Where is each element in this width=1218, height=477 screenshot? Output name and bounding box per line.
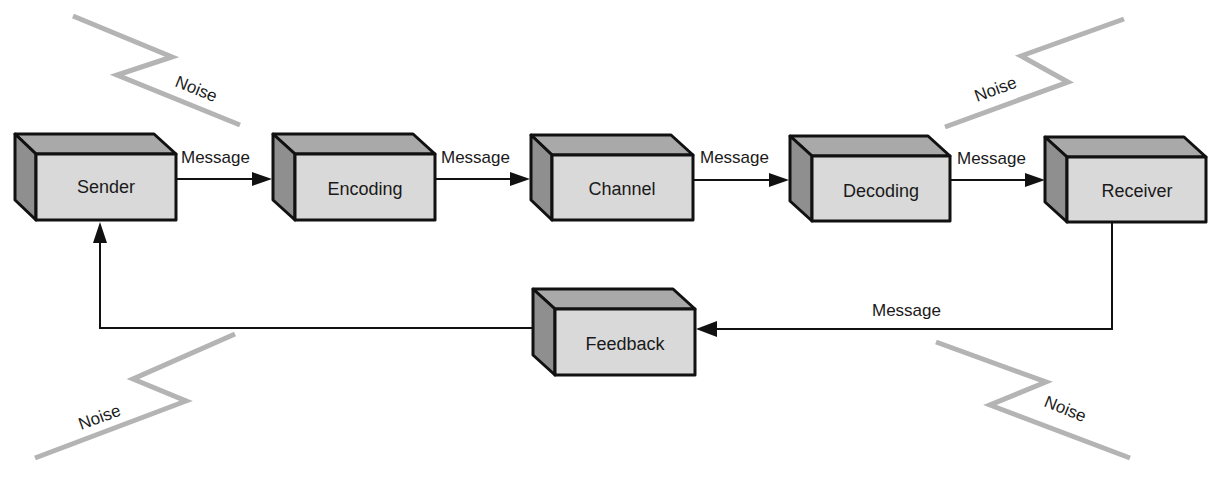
edge-label: Message	[441, 148, 510, 167]
edge-line	[100, 238, 540, 328]
node-feedback[interactable]: Feedback	[533, 289, 695, 375]
noise-bottom-right: Noise	[936, 342, 1130, 458]
arrowhead-right-icon	[769, 173, 789, 187]
arrowhead-up-icon	[93, 222, 107, 243]
node-channel[interactable]: Channel	[531, 135, 693, 220]
edge-decoding-receiver: Message	[950, 149, 1045, 187]
box-top-face	[273, 134, 435, 154]
noise-zigzag-icon	[936, 342, 1130, 458]
edge-label: Message	[700, 148, 769, 167]
node-encoding[interactable]: Encoding	[273, 134, 435, 220]
node-label: Channel	[588, 179, 655, 199]
arrowhead-right-icon	[252, 172, 272, 186]
box-top-face	[531, 135, 693, 155]
edge-label: Message	[872, 301, 941, 320]
arrowhead-left-icon	[696, 321, 717, 337]
noise-zigzag-icon	[945, 19, 1124, 127]
node-label: Decoding	[843, 181, 919, 201]
box-top-face	[15, 134, 176, 154]
node-label: Encoding	[327, 179, 402, 199]
box-top-face	[790, 136, 950, 156]
box-top-face	[1045, 137, 1206, 157]
noise-zigzag-icon	[73, 16, 240, 125]
node-label: Receiver	[1101, 181, 1172, 201]
box-top-face	[533, 289, 695, 309]
noise-label: Noise	[1042, 392, 1089, 426]
edge-channel-decoding: Message	[693, 148, 789, 187]
noise-top-left: Noise	[73, 16, 240, 125]
arrowhead-right-icon	[510, 172, 530, 186]
arrowhead-right-icon	[1025, 173, 1045, 187]
node-label: Feedback	[585, 334, 665, 354]
noise-zigzag-icon	[35, 334, 235, 458]
edge-label: Message	[181, 148, 250, 167]
communication-diagram: Noise Noise Noise Noise Message Message …	[0, 0, 1218, 477]
noise-top-right: Noise	[945, 19, 1124, 127]
edge-feedback-sender	[93, 222, 540, 328]
node-label: Sender	[77, 177, 135, 197]
node-decoding[interactable]: Decoding	[790, 136, 950, 221]
edge-label: Message	[957, 149, 1026, 168]
node-receiver[interactable]: Receiver	[1045, 137, 1206, 222]
edge-receiver-feedback: Message	[696, 222, 1112, 337]
edge-sender-encoding: Message	[176, 148, 272, 186]
edge-encoding-channel: Message	[435, 148, 530, 186]
noise-bottom-left: Noise	[35, 334, 235, 458]
node-sender[interactable]: Sender	[15, 134, 176, 220]
